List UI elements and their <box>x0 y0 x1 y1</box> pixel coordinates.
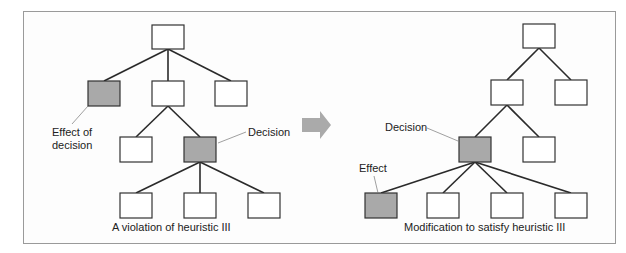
tree-diagrams <box>0 0 626 253</box>
left-decision-label: Decision <box>248 126 290 139</box>
left-node-l1-right <box>215 81 247 106</box>
right-node-l1-left <box>491 80 523 105</box>
right-node-l1-right <box>555 80 587 105</box>
right-node-l3-3 <box>491 193 523 218</box>
left-pointer-lines <box>72 106 246 143</box>
right-node-l2-right <box>523 137 555 162</box>
left-caption: A violation of heuristic III <box>112 221 231 234</box>
right-node-l3-2 <box>427 193 459 218</box>
right-arrow-icon <box>302 111 331 139</box>
right-pointer-lines <box>374 128 458 193</box>
effect-of-decision-label-line2: decision <box>52 139 92 152</box>
left-tree-edges <box>104 49 264 193</box>
right-node-l3-4 <box>555 193 587 218</box>
effect-of-decision-label-line1: Effect of <box>52 126 92 139</box>
right-caption: Modification to satisfy heuristic III <box>404 221 565 234</box>
right-root-node <box>523 24 555 48</box>
left-root-node <box>152 25 184 49</box>
left-node-l1-middle <box>152 81 184 106</box>
right-effect-label: Effect <box>359 162 387 175</box>
left-node-l3-3 <box>248 193 280 218</box>
left-node-l3-2 <box>184 193 216 218</box>
right-decision-label: Decision <box>385 121 427 134</box>
left-effect-node <box>88 81 120 106</box>
right-effect-node <box>365 193 397 218</box>
left-decision-node <box>184 137 216 162</box>
left-node-l3-1 <box>120 193 152 218</box>
right-decision-node <box>459 137 491 162</box>
left-node-l2-left <box>120 137 152 162</box>
